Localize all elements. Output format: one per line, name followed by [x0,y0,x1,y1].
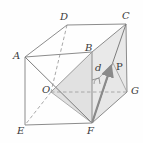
vector-label-d: d [95,63,101,73]
geometry-figure: A B C D E F G O P d [0,0,143,143]
vertex-label-O: O [42,85,50,95]
point-label-P: P [116,62,123,72]
vertex-label-B: B [85,43,92,53]
vertex-label-E: E [17,126,24,136]
vertex-label-G: G [131,86,139,96]
vertex-label-A: A [13,51,20,61]
vertex-label-F: F [87,126,94,136]
edge-O-E-hidden [25,92,51,125]
edge-D-C [67,24,126,25]
edge-A-D [25,25,67,57]
edge-A-B [25,52,92,57]
edge-E-F [25,123,92,125]
vertex-label-C: C [122,11,130,21]
vertex-label-D: D [60,12,68,22]
diagonal-plane-obf [51,52,92,123]
